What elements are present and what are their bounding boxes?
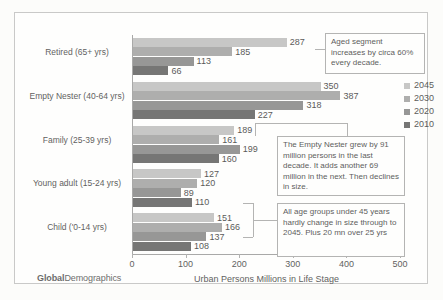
category-label: Empty Nester (40-64 yrs) <box>25 91 129 101</box>
bar-2045-family-25-39-yrs- <box>133 126 234 135</box>
x-tick-label: 300 <box>285 259 300 269</box>
leader-line-nester-h <box>255 123 347 124</box>
category-label: Child ('0-14 yrs) <box>25 222 129 232</box>
bar-2020-retired-65-yrs- <box>133 57 194 66</box>
bar-value-label: 160 <box>222 155 237 164</box>
legend-item-2020[interactable]: 2020 <box>404 105 434 118</box>
callout-empty-nester: The Empty Nester grew by 91 million pers… <box>277 136 405 196</box>
legend-item-2030[interactable]: 2030 <box>404 92 434 105</box>
legend-label: 2045 <box>414 81 434 90</box>
bar-2030-retired-65-yrs- <box>133 47 232 56</box>
bar-value-label: 137 <box>209 233 224 242</box>
x-tick-label: 400 <box>339 259 354 269</box>
screenshot-page: Retired (65+ yrs) Empty Nester (40-64 yr… <box>0 0 443 300</box>
legend-swatch-icon <box>404 122 410 128</box>
bar-value-label: 350 <box>324 82 339 91</box>
bar-2045-retired-65-yrs- <box>133 38 287 47</box>
bar-2045-empty-nester-40-64-yrs- <box>133 82 321 91</box>
bar-value-label: 120 <box>200 179 215 188</box>
callout-aged-segment: Aged segment increases by circa 60% ever… <box>325 33 425 74</box>
x-axis-title: Urban Persons Millions in Life Stage <box>132 274 401 284</box>
bar-value-label: 66 <box>171 67 181 76</box>
leader-line-nester-v2 <box>347 123 348 136</box>
bar-2020-young-adult-15-24-yrs- <box>133 188 181 197</box>
brand-bold-text: Global <box>37 273 64 283</box>
bar-value-label: 166 <box>225 223 240 232</box>
bar-2010-child-0-14-yrs- <box>133 242 191 251</box>
bar-2030-family-25-39-yrs- <box>133 135 219 144</box>
leader-line-young-bottom <box>243 237 253 238</box>
legend: 2045203020202010 <box>404 79 434 131</box>
brand-logo: GlobalDemographics <box>37 273 121 283</box>
legend-swatch-icon <box>404 109 410 115</box>
bar-2045-child-0-14-yrs- <box>133 213 214 222</box>
x-tick <box>239 254 240 258</box>
bar-2045-young-adult-15-24-yrs- <box>133 169 201 178</box>
brand-light-text: Demographics <box>64 273 121 283</box>
category-axis: Retired (65+ yrs) Empty Nester (40-64 yr… <box>21 35 129 254</box>
bar-value-label: 227 <box>258 111 273 120</box>
leader-line-nester-v <box>255 123 256 136</box>
x-tick <box>132 254 133 258</box>
bar-2010-family-25-39-yrs- <box>133 154 219 163</box>
x-tick-label: 100 <box>178 259 193 269</box>
bar-2020-family-25-39-yrs- <box>133 145 240 154</box>
bar-2010-retired-65-yrs- <box>133 66 168 75</box>
x-tick-label: 200 <box>232 259 247 269</box>
leader-line-young-v <box>253 203 254 237</box>
leader-line-aged <box>315 49 325 50</box>
legend-item-2045[interactable]: 2045 <box>404 79 434 92</box>
legend-label: 2010 <box>414 120 434 129</box>
bar-value-label: 110 <box>195 198 209 207</box>
bar-value-label: 189 <box>237 126 252 135</box>
bar-2010-empty-nester-40-64-yrs- <box>133 110 255 119</box>
bar-2030-young-adult-15-24-yrs- <box>133 179 197 188</box>
bar-2010-young-adult-15-24-yrs- <box>133 198 192 207</box>
bar-value-label: 387 <box>343 92 358 101</box>
bar-value-label: 318 <box>306 101 321 110</box>
legend-swatch-icon <box>404 83 410 89</box>
bar-2020-child-0-14-yrs- <box>133 232 206 241</box>
bar-value-label: 287 <box>290 38 305 47</box>
bar-value-label: 185 <box>235 48 250 57</box>
bar-value-label: 89 <box>184 189 194 198</box>
category-label: Young adult (15-24 yrs) <box>25 178 129 188</box>
x-tick-label: 500 <box>392 259 407 269</box>
leader-line-young-h <box>253 220 277 221</box>
leader-line-young-top <box>243 203 253 204</box>
bar-value-label: 199 <box>243 145 258 154</box>
bar-value-label: 113 <box>197 57 211 66</box>
bar-2020-empty-nester-40-64-yrs- <box>133 101 303 110</box>
x-tick <box>186 254 187 258</box>
x-tick-label: 0 <box>129 259 134 269</box>
bar-value-label: 108 <box>194 242 209 251</box>
legend-label: 2030 <box>414 94 434 103</box>
legend-swatch-icon <box>404 96 410 102</box>
category-label: Retired (65+ yrs) <box>25 47 129 57</box>
callout-under-45: All age groups under 45 years hardly cha… <box>277 203 405 257</box>
bar-2030-empty-nester-40-64-yrs- <box>133 91 340 100</box>
bar-value-label: 161 <box>222 136 237 145</box>
category-label: Family (25-39 yrs) <box>25 135 129 145</box>
bar-2030-child-0-14-yrs- <box>133 223 222 232</box>
legend-label: 2020 <box>414 107 434 116</box>
legend-item-2010[interactable]: 2010 <box>404 118 434 131</box>
chart-frame: Retired (65+ yrs) Empty Nester (40-64 yr… <box>14 12 428 284</box>
